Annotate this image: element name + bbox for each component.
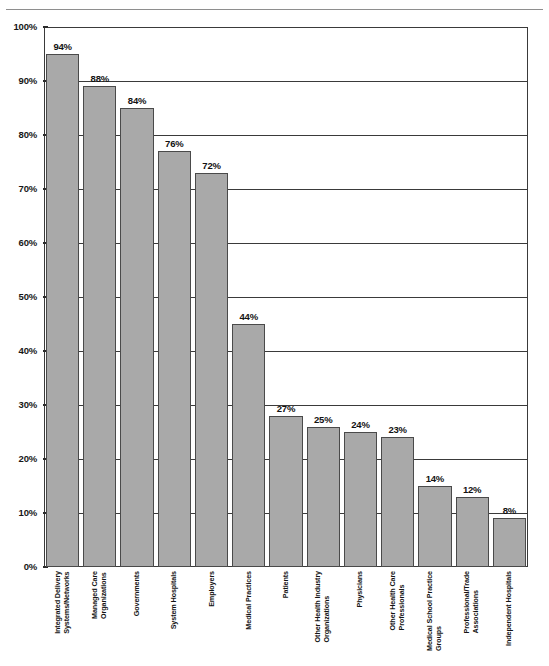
y-axis-tick-label: 40%: [0, 345, 37, 356]
x-axis-label-slot: Governments: [120, 571, 153, 666]
y-axis-tick-label: 80%: [0, 129, 37, 140]
y-axis-tick-label: 0%: [0, 561, 37, 572]
x-axis-label-slot: Managed CareOrganizations: [83, 571, 116, 666]
x-axis-label-slot: Independent Hospitals: [493, 571, 526, 666]
bar-slot: 94%: [46, 27, 79, 567]
bar-slot: 25%: [307, 27, 340, 567]
bar[interactable]: [418, 486, 451, 567]
bar-value-label: 76%: [148, 138, 201, 149]
bar-value-label: 27%: [259, 403, 312, 414]
bar-slot: 44%: [232, 27, 265, 567]
bar-value-label: 8%: [483, 505, 536, 516]
x-axis-label-slot: Integrated DeliverySystems/Networks: [46, 571, 79, 666]
y-axis-tick-label: 30%: [0, 399, 37, 410]
x-axis-label-slot: Professional/TradeAssociations: [456, 571, 489, 666]
x-axis-label-slot: Other Health CareProfessionals: [381, 571, 414, 666]
x-axis-labels-group: Integrated DeliverySystems/NetworksManag…: [44, 571, 528, 666]
bar-slot: 84%: [120, 27, 153, 567]
bar-slot: 88%: [83, 27, 116, 567]
x-axis-category-label: Other Health CareProfessionals: [389, 571, 406, 630]
bar-slot: 72%: [195, 27, 228, 567]
bar-value-label: 44%: [222, 311, 275, 322]
bar[interactable]: [381, 437, 414, 567]
x-axis-category-label: Medical Practices: [244, 571, 253, 630]
x-axis-label-slot: System Hospitals: [158, 571, 191, 666]
y-axis-tick-label: 20%: [0, 453, 37, 464]
x-axis-label-slot: Patients: [269, 571, 302, 666]
x-axis-category-label: Medical School PracticeGroups: [426, 571, 443, 651]
bar-slot: 8%: [493, 27, 526, 567]
bar-value-label: 88%: [73, 73, 126, 84]
x-axis-label-slot: Other Health IndustryOrganizations: [307, 571, 340, 666]
bar-value-label: 72%: [185, 160, 238, 171]
bar[interactable]: [158, 151, 191, 567]
bars-group: 94%88%84%76%72%44%27%25%24%23%14%12%8%: [44, 27, 528, 567]
y-axis-tick-label: 10%: [0, 507, 37, 518]
bar-value-label: 12%: [446, 484, 499, 495]
bar-slot: 24%: [344, 27, 377, 567]
bar-chart: 0%10%20%30%40%50%60%70%80%90%100% 94%88%…: [0, 0, 549, 666]
y-axis-tick-label: 70%: [0, 183, 37, 194]
x-axis-label-slot: Employers: [195, 571, 228, 666]
bar-value-label: 14%: [408, 473, 461, 484]
bar[interactable]: [232, 324, 265, 567]
bar[interactable]: [195, 173, 228, 567]
bar-value-label: 23%: [371, 424, 424, 435]
x-axis-category-label: Independent Hospitals: [505, 571, 514, 646]
y-axis-tick-label: 50%: [0, 291, 37, 302]
x-axis-category-label: Employers: [207, 571, 216, 607]
bar[interactable]: [493, 518, 526, 567]
x-axis-category-label: Other Health IndustryOrganizations: [315, 571, 332, 642]
bar[interactable]: [344, 432, 377, 567]
bar[interactable]: [269, 416, 302, 567]
y-axis-tick-label: 100%: [0, 21, 37, 32]
x-axis-category-label: Professional/TradeAssociations: [464, 571, 481, 634]
x-axis-category-label: Physicians: [356, 571, 365, 608]
x-axis-label-slot: Medical Practices: [232, 571, 265, 666]
bar[interactable]: [46, 54, 79, 567]
bar-slot: 27%: [269, 27, 302, 567]
x-axis-label-slot: Medical School PracticeGroups: [418, 571, 451, 666]
bar-slot: 76%: [158, 27, 191, 567]
bar-slot: 23%: [381, 27, 414, 567]
y-axis-tick-label: 90%: [0, 75, 37, 86]
x-axis-category-label: Integrated DeliverySystems/Networks: [54, 571, 71, 634]
bar[interactable]: [307, 427, 340, 567]
x-axis-category-label: Managed CareOrganizations: [91, 571, 108, 619]
bar[interactable]: [83, 86, 116, 567]
bar-value-label: 84%: [110, 95, 163, 106]
y-axis-tick-label: 60%: [0, 237, 37, 248]
bar-value-label: 94%: [36, 41, 89, 52]
x-axis-category-label: Governments: [133, 571, 142, 616]
bar[interactable]: [120, 108, 153, 567]
x-axis-category-label: Patients: [282, 571, 291, 598]
x-axis-label-slot: Physicians: [344, 571, 377, 666]
x-axis-category-label: System Hospitals: [170, 571, 179, 629]
bar-slot: 12%: [456, 27, 489, 567]
